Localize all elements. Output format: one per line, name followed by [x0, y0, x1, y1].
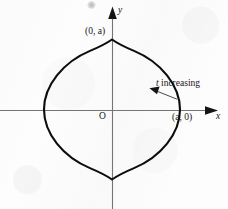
label-point-a-0: (a, 0): [172, 113, 192, 123]
y-axis-arrowhead: [108, 7, 117, 20]
label-axis-x: x: [216, 112, 220, 122]
label-point-0-a: (0, a): [85, 27, 105, 37]
label-axis-y: y: [118, 6, 122, 16]
plot-canvas: [0, 0, 228, 209]
astroid-figure: (0, a) (a, 0) O x y t increasing: [0, 0, 228, 209]
label-origin: O: [99, 112, 106, 122]
t-increasing-arrow-shaft: [155, 90, 177, 99]
label-t-increasing: t increasing: [156, 79, 200, 89]
